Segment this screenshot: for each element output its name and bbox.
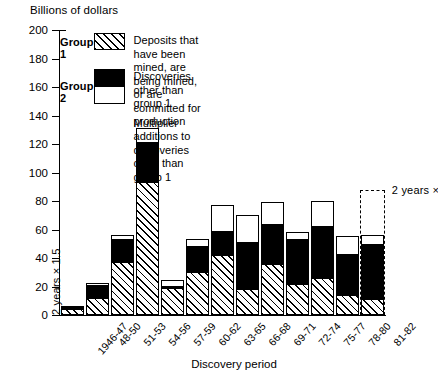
x-tick-label-75-77: 75-77 — [341, 320, 368, 348]
bar-segment-54-56-group-1 — [136, 182, 159, 315]
bar-segment-66-68-group-2-discoveries — [236, 242, 259, 290]
bar-78-80 — [336, 237, 359, 315]
bar-segment-75-77-group-2-multiplier-additions — [311, 201, 334, 228]
chart-figure: Billions of dollars 02040608010012014016… — [0, 0, 438, 380]
bar-51-53 — [111, 236, 134, 315]
y-tick-label-40: 40 — [8, 252, 48, 264]
bar-segment-72-74-group-1 — [286, 284, 309, 315]
y-tick-label-120: 120 — [8, 138, 48, 150]
bar-segment-63-65-group-2-discoveries — [211, 231, 234, 257]
y-tick-label-200: 200 — [8, 24, 48, 36]
y-tick-label-20: 20 — [8, 281, 48, 293]
bar-72-74 — [286, 233, 309, 315]
projection-label: 2 years × 1.5 — [392, 184, 438, 196]
y-tick-label-60: 60 — [8, 224, 48, 236]
x-tick-label-51-53: 51-53 — [141, 320, 168, 348]
x-tick-label-60-62: 60-62 — [216, 320, 243, 348]
x-tick-label-54-56: 54-56 — [166, 320, 193, 348]
projection-box — [360, 190, 386, 315]
y-tick-140 — [52, 116, 60, 117]
legend-row-group2: Group 2 Discoveries other than group 1 M… — [60, 69, 209, 184]
bar-segment-48-50-group-1 — [86, 298, 109, 315]
x-tick-label-63-65: 63-65 — [241, 320, 268, 348]
bar-segment-69-71-group-2-multiplier-additions — [261, 202, 284, 225]
y-tick-label-0: 0 — [8, 309, 48, 321]
bar-60-62 — [186, 240, 209, 315]
x-tick-label-66-68: 66-68 — [266, 320, 293, 348]
y-tick-120 — [52, 144, 60, 145]
bar-75-77 — [311, 202, 334, 315]
legend-group2-name: Group 2 — [60, 69, 94, 104]
x-axis-line — [59, 315, 386, 316]
y-tick-label-100: 100 — [8, 167, 48, 179]
bar-segment-63-65-group-1 — [211, 255, 234, 315]
y-tick-200 — [52, 30, 60, 31]
y-tick-80 — [52, 201, 60, 202]
bar-segment-72-74-group-2-discoveries — [286, 239, 309, 285]
x-tick-label-78-80: 78-80 — [366, 320, 393, 348]
x-tick-label-81-82: 81-82 — [391, 320, 418, 348]
bar-segment-51-53-group-2-discoveries — [111, 239, 134, 263]
bar-segment-75-77-group-1 — [311, 278, 334, 315]
bar-63-65 — [211, 206, 234, 315]
x-tick-label-69-71: 69-71 — [291, 320, 318, 348]
legend-swatch-stack — [94, 69, 125, 104]
legend-swatch-white — [94, 86, 125, 104]
bar-segment-63-65-group-2-multiplier-additions — [211, 205, 234, 232]
bar-segment-1946-47-group-1 — [61, 309, 84, 315]
bar-segment-69-71-group-1 — [261, 264, 284, 315]
y-tick-label-140: 140 — [8, 110, 48, 122]
legend-swatch-hatched — [94, 33, 125, 50]
bar-57-59 — [161, 282, 184, 315]
bar-1946-47 — [61, 307, 84, 315]
y-tick-160 — [52, 87, 60, 88]
inplot-annotation-label: 2 years × 1.5 — [50, 249, 62, 316]
y-tick-label-180: 180 — [8, 53, 48, 65]
bar-segment-78-80-group-2-discoveries — [336, 254, 359, 297]
y-tick-60 — [52, 230, 60, 231]
bar-48-50 — [86, 284, 109, 315]
bar-segment-51-53-group-1 — [111, 262, 134, 315]
y-tick-100 — [52, 173, 60, 174]
bar-segment-60-62-group-1 — [186, 272, 209, 315]
y-tick-180 — [52, 59, 60, 60]
y-tick-0 — [52, 315, 60, 316]
y-tick-label-160: 160 — [8, 81, 48, 93]
bar-segment-60-62-group-2-discoveries — [186, 246, 209, 273]
legend-swatch-black — [94, 69, 125, 87]
legend-group2-texts: Discoveries other than group 1 Multiplie… — [134, 69, 210, 184]
legend-group2a-description: Discoveries other than group 1 — [134, 69, 210, 111]
bar-segment-75-77-group-2-discoveries — [311, 226, 334, 279]
y-axis-title: Billions of dollars — [30, 4, 118, 16]
bar-segment-78-80-group-2-multiplier-additions — [336, 236, 359, 255]
legend-group2b-description: Multiplier additions to discoveries othe… — [134, 116, 210, 185]
x-tick-label-57-59: 57-59 — [191, 320, 218, 348]
bar-66-68 — [236, 216, 259, 315]
bar-segment-57-59-group-1 — [161, 288, 184, 315]
legend-group1-name: Group 1 — [60, 33, 94, 60]
bar-69-71 — [261, 203, 284, 315]
bar-segment-66-68-group-1 — [236, 289, 259, 315]
bar-segment-69-71-group-2-discoveries — [261, 224, 284, 265]
x-tick-label-72-74: 72-74 — [316, 320, 343, 348]
bar-segment-78-80-group-1 — [336, 295, 359, 315]
y-tick-label-80: 80 — [8, 195, 48, 207]
bar-segment-66-68-group-2-multiplier-additions — [236, 215, 259, 244]
x-axis-title: Discovery period — [0, 358, 438, 370]
